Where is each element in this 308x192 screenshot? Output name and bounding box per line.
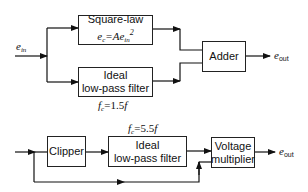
square-law-equation: ec=Aein2 — [97, 26, 133, 47]
output-label-top: eout — [274, 49, 289, 62]
cutoff-label-top: fc=1.5f — [98, 99, 127, 113]
adder-block: Adder — [202, 41, 246, 72]
lowpass-filter-top-block: Ideal low-pass filter — [78, 67, 153, 97]
square-law-title: Square-law — [88, 13, 144, 26]
cutoff-label-bottom: fc=5.5f — [128, 122, 157, 136]
voltage-multiplier-block: Voltage multiplier — [211, 137, 255, 168]
square-law-block: Square-law ec=Aein2 — [78, 15, 153, 45]
clipper-block: Clipper — [47, 136, 86, 167]
output-label-bottom: eout — [279, 145, 294, 158]
input-label-top: ein — [16, 40, 26, 54]
lowpass-filter-bottom-block: Ideal low-pass filter — [108, 136, 187, 167]
